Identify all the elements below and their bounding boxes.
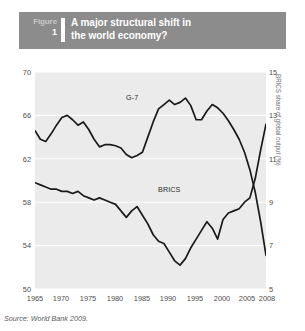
right-ytick-1: 13: [269, 111, 285, 120]
xtick-1965: 1965: [22, 294, 48, 303]
figure-header: Figure 1 A major structural shift in the…: [19, 12, 286, 49]
right-ytick-3: 9: [269, 198, 285, 207]
xtick-1995: 1995: [182, 294, 208, 303]
series-label-brics: BRICS: [158, 185, 180, 194]
series-line-g7: [35, 98, 266, 255]
gridlines: [35, 72, 266, 289]
xtick-1985: 1985: [129, 294, 155, 303]
left-ytick-1: 66: [15, 111, 31, 120]
figure-tag-word: Figure: [24, 18, 57, 26]
right-ytick-0: 15: [269, 68, 285, 77]
left-ytick-3: 58: [15, 198, 31, 207]
figure-title-line-1: A major structural shift in: [71, 17, 286, 30]
right-ytick-5: 5: [269, 285, 285, 294]
figure-tag-number: 1: [24, 28, 57, 37]
xtick-2008: 2008: [254, 294, 280, 303]
left-ytick-2: 62: [15, 155, 31, 164]
series-label-g7: G-7: [126, 93, 138, 102]
xtick-2000: 2000: [209, 294, 235, 303]
right-ytick-4: 7: [269, 241, 285, 250]
plot-area: [35, 72, 266, 289]
figure-tag: Figure 1: [19, 12, 61, 49]
right-ytick-2: 11: [269, 155, 285, 164]
xtick-1970: 1970: [48, 294, 74, 303]
figure-title-line-2: the world economy?: [71, 30, 286, 43]
figure-title: A major structural shift in the world ec…: [65, 12, 286, 49]
xtick-1975: 1975: [75, 294, 101, 303]
left-ytick-0: 70: [15, 68, 31, 77]
xtick-1980: 1980: [102, 294, 128, 303]
chart-canvas: [35, 72, 266, 289]
source-note: Source: World Bank 2009.: [4, 314, 88, 323]
series-line-brics: [35, 124, 266, 265]
figure-root: Figure 1 A major structural shift in the…: [0, 0, 305, 331]
left-ytick-4: 54: [15, 241, 31, 250]
xtick-1990: 1990: [155, 294, 181, 303]
left-ytick-5: 50: [15, 285, 31, 294]
